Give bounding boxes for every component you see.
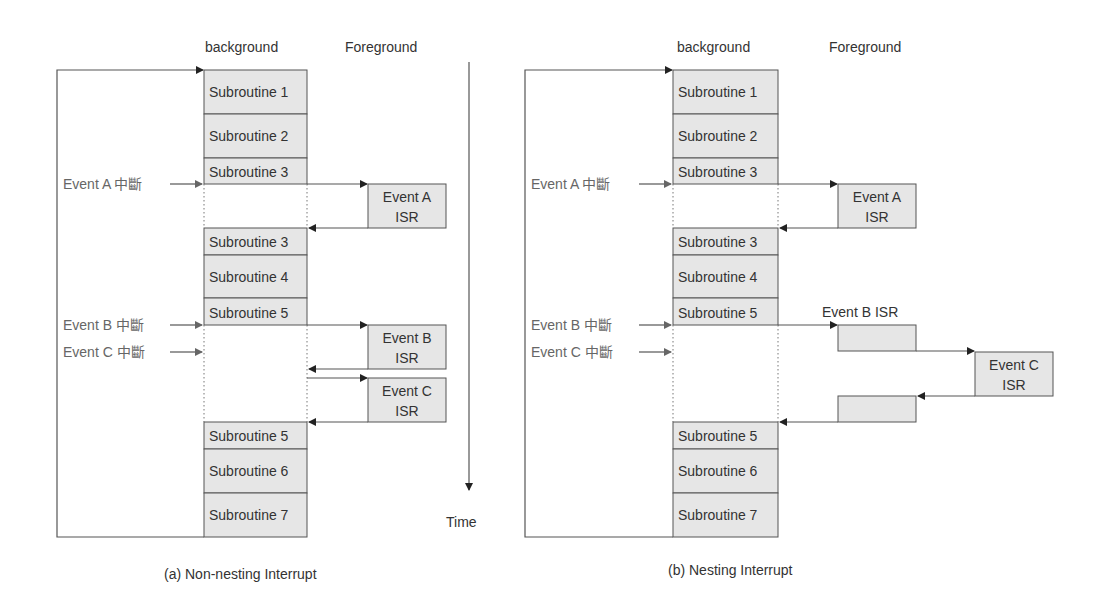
caption-b: (b) Nesting Interrupt [668, 562, 793, 578]
diagram-nesting: background Foreground Subroutine 1 Subro… [525, 39, 1053, 578]
subroutine-label: Subroutine 7 [678, 507, 758, 523]
isr-a-label: Event A [853, 189, 902, 205]
isr-b-label: Event B [382, 330, 431, 346]
subroutine-label: Subroutine 6 [209, 463, 289, 479]
loop-arrow [57, 70, 204, 537]
subroutine-label: Subroutine 6 [678, 463, 758, 479]
header-background: background [677, 39, 750, 55]
subroutine-label: Subroutine 5 [209, 428, 289, 444]
isr-c-label: ISR [1002, 377, 1025, 393]
subroutine-label: Subroutine 7 [209, 507, 289, 523]
subroutine-label: Subroutine 1 [678, 84, 758, 100]
subroutine-label: Subroutine 2 [678, 128, 758, 144]
isr-a-label: Event A [383, 189, 432, 205]
subroutine-label: Subroutine 3 [678, 234, 758, 250]
event-c-label: Event C 中斷 [531, 344, 613, 360]
subroutine-stack: Subroutine 1 Subroutine 2 Subroutine 3 S… [673, 70, 778, 537]
isr-b-box-second-part [838, 396, 916, 422]
subroutine-label: Subroutine 5 [678, 305, 758, 321]
isr-a-label: ISR [865, 209, 888, 225]
subroutine-label: Subroutine 5 [209, 305, 289, 321]
header-background: background [205, 39, 278, 55]
isr-c-label: Event C [989, 357, 1039, 373]
isr-a-label: ISR [395, 209, 418, 225]
subroutine-label: Subroutine 2 [209, 128, 289, 144]
event-c-label: Event C 中斷 [63, 344, 145, 360]
interrupt-diagram: background Foreground Subroutine 1 Subro… [0, 0, 1109, 616]
event-b-label: Event B 中斷 [531, 317, 612, 333]
subroutine-label: Subroutine 3 [209, 164, 289, 180]
subroutine-label: Subroutine 3 [678, 164, 758, 180]
loop-arrow [525, 70, 673, 537]
isr-b-box-first-part [838, 325, 916, 351]
header-foreground: Foreground [829, 39, 901, 55]
subroutine-label: Subroutine 5 [678, 428, 758, 444]
header-foreground: Foreground [345, 39, 417, 55]
isr-b-label: ISR [395, 350, 418, 366]
isr-c-label: ISR [395, 403, 418, 419]
subroutine-label: Subroutine 4 [678, 269, 758, 285]
subroutine-label: Subroutine 1 [209, 84, 289, 100]
isr-b-label: Event B ISR [822, 304, 898, 320]
event-a-label: Event A 中斷 [531, 176, 610, 192]
diagram-non-nesting: background Foreground Subroutine 1 Subro… [57, 39, 477, 582]
subroutine-label: Subroutine 4 [209, 269, 289, 285]
event-b-label: Event B 中斷 [63, 317, 144, 333]
time-label: Time [446, 514, 477, 530]
caption-a: (a) Non-nesting Interrupt [164, 566, 317, 582]
subroutine-stack: Subroutine 1 Subroutine 2 Subroutine 3 S… [204, 70, 307, 537]
subroutine-label: Subroutine 3 [209, 234, 289, 250]
event-a-label: Event A 中斷 [63, 176, 142, 192]
isr-c-label: Event C [382, 383, 432, 399]
